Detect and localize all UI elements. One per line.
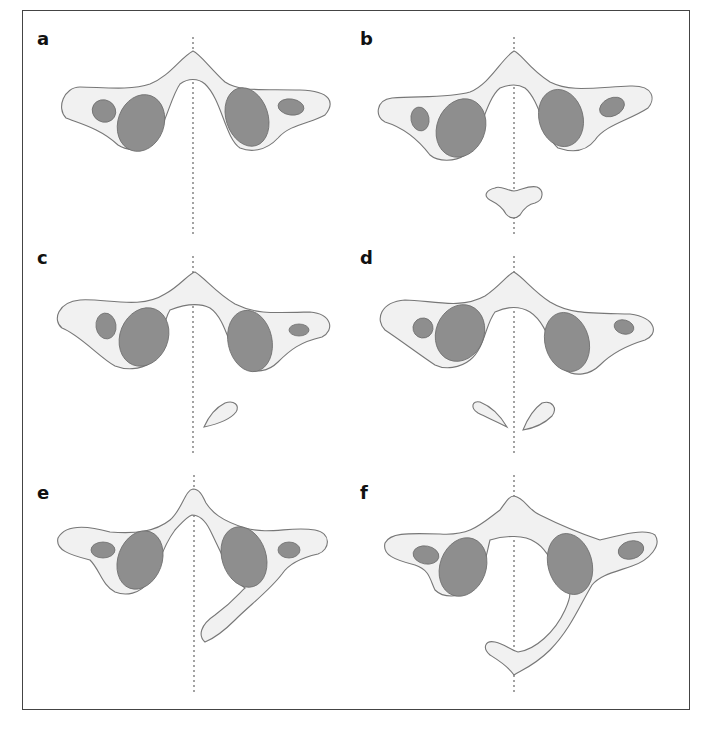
atlas-diagram-d — [360, 230, 713, 470]
posterior-arch-fragment-left — [473, 402, 507, 427]
posterior-arch-fragment — [204, 402, 237, 427]
atlas-diagram-b — [360, 0, 713, 240]
atlas-diagram-f — [360, 470, 713, 731]
midline-ossicle — [486, 187, 542, 218]
posterior-arch-fragment-right — [523, 402, 554, 430]
atlas-diagram-a — [0, 0, 360, 240]
transverse-foramen-left — [91, 542, 115, 558]
atlas-diagram-e — [0, 470, 360, 731]
atlas-diagram-c — [0, 230, 360, 470]
transverse-foramen-right — [289, 324, 309, 336]
atlas-ring — [385, 496, 657, 675]
transverse-foramen-right — [278, 542, 300, 558]
atlas-ring — [58, 489, 328, 642]
